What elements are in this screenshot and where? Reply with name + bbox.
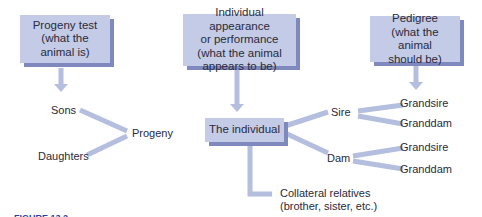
collateral-label-line2: (brother, sister, etc.): [280, 200, 377, 213]
dam-grandsire-label: Grandsire: [400, 141, 448, 154]
the-individual-box: The individual: [205, 118, 284, 142]
progeny-test-line2: (what the: [33, 32, 98, 46]
pedigree-line2: (what the animal: [374, 26, 456, 53]
sons-label: Sons: [51, 104, 76, 117]
pedigree-box: Pedigree (what the animal should be): [370, 16, 460, 62]
sire-label: Sire: [331, 106, 351, 119]
individual-appearance-line4: appears to be): [187, 60, 292, 74]
figure-caption: FIGURE 13.2: [14, 213, 68, 217]
sire-granddam-label: Granddam: [400, 117, 452, 130]
progeny-test-line1: Progeny test: [33, 19, 98, 33]
pedigree-line3: should be): [374, 53, 456, 67]
progeny-label: Progeny: [132, 127, 173, 140]
progeny-test-box: Progeny test (what the animal is): [20, 15, 110, 63]
dam-label: Dam: [327, 152, 350, 165]
progeny-test-line3: animal is): [33, 46, 98, 60]
pedigree-line1: Pedigree: [374, 12, 456, 26]
individual-appearance-line3: (what the animal: [187, 47, 292, 61]
collateral-label-line1: Collateral relatives: [280, 187, 370, 200]
sire-grandsire-label: Grandsire: [400, 97, 448, 110]
daughters-label: Daughters: [38, 150, 89, 163]
individual-appearance-line1: Individual appearance: [187, 6, 292, 33]
individual-appearance-box: Individual appearance or performance (wh…: [183, 14, 296, 66]
the-individual-label: The individual: [209, 123, 280, 137]
individual-appearance-line2: or performance: [187, 33, 292, 47]
dam-granddam-label: Granddam: [400, 163, 452, 176]
